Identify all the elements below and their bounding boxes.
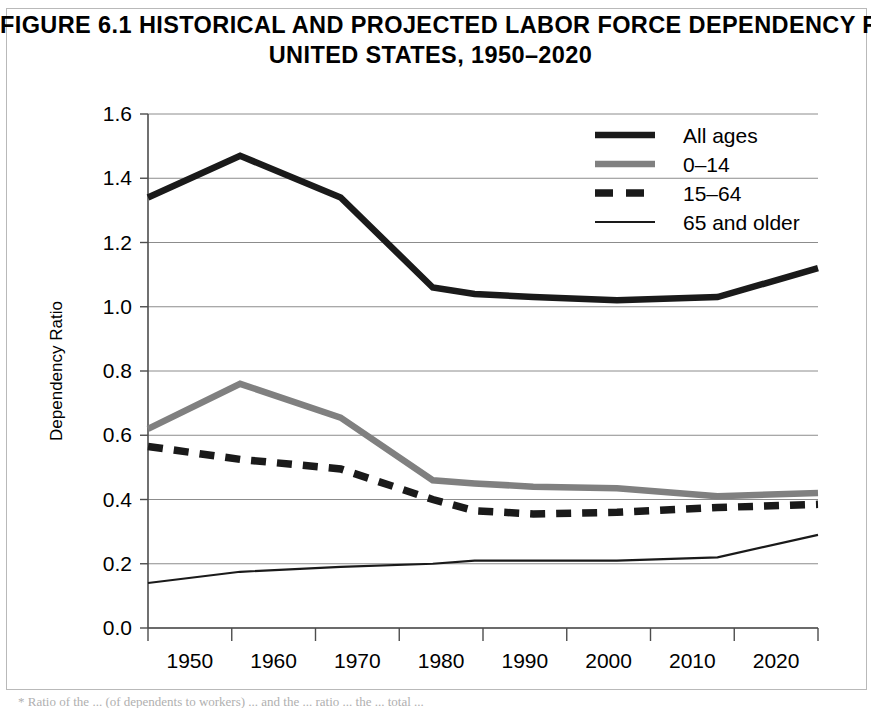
legend-label: 65 and older [683, 211, 800, 234]
x-axis-tick-labels: 19501960197019801990200020102020 [167, 649, 800, 672]
legend-label: All ages [683, 124, 758, 147]
legend-label: 0–14 [683, 153, 730, 176]
series-line [148, 446, 818, 513]
x-tick-label: 1960 [250, 649, 297, 672]
y-axis-ticks [140, 114, 148, 628]
x-axis-ticks [148, 628, 818, 641]
y-tick-label: 1.0 [103, 295, 132, 318]
x-tick-label: 1980 [418, 649, 465, 672]
x-tick-label: 2020 [753, 649, 800, 672]
chart-legend: All ages0–1415–6465 and older [595, 124, 800, 234]
series-line [148, 384, 818, 496]
legend-label: 15–64 [683, 182, 742, 205]
x-tick-label: 1950 [167, 649, 214, 672]
y-tick-label: 0.6 [103, 423, 132, 446]
y-tick-label: 0.8 [103, 359, 132, 382]
figure-footnote: * Ratio of the ... (of dependents to wor… [18, 694, 858, 708]
y-tick-label: 0.0 [103, 616, 132, 639]
line-chart: 0.00.20.40.60.81.01.21.41.6 195019601970… [0, 0, 871, 711]
series-line [148, 535, 818, 583]
x-tick-label: 2010 [669, 649, 716, 672]
y-axis-title: Dependency Ratio [47, 301, 66, 441]
y-axis-tick-labels: 0.00.20.40.60.81.01.21.41.6 [103, 102, 133, 639]
y-tick-label: 1.2 [103, 231, 132, 254]
y-tick-label: 1.4 [103, 166, 133, 189]
y-tick-label: 0.2 [103, 552, 132, 575]
x-tick-label: 2000 [585, 649, 632, 672]
y-tick-label: 0.4 [103, 488, 133, 511]
x-tick-label: 1990 [502, 649, 549, 672]
y-tick-label: 1.6 [103, 102, 132, 125]
x-tick-label: 1970 [334, 649, 381, 672]
